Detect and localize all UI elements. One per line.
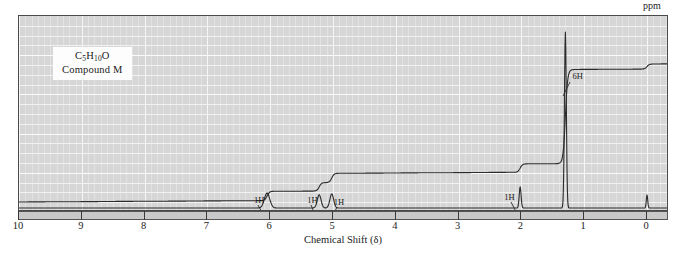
x-axis-tick-label-10: 10 xyxy=(3,220,33,231)
annotation-leader-line xyxy=(234,196,274,211)
x-axis-title: Chemical Shift (δ) xyxy=(0,234,686,245)
formula-o: O xyxy=(102,50,110,61)
x-axis-tick xyxy=(520,211,521,220)
x-axis-tick xyxy=(269,211,270,220)
x-axis-tick-label-9: 9 xyxy=(66,220,96,231)
x-axis-tick-label-1: 1 xyxy=(568,220,598,231)
annotation-leader-line xyxy=(484,193,524,211)
plot-area: C5H10O Compound M 1H1H1H1H6H xyxy=(18,15,668,211)
x-axis-tick xyxy=(81,211,82,220)
x-axis-tick xyxy=(144,211,145,220)
x-axis-tick-label-2: 2 xyxy=(505,220,535,231)
x-axis-tick xyxy=(458,211,459,220)
x-axis-tick xyxy=(206,211,207,220)
x-axis-tick-label-0: 0 xyxy=(631,220,661,231)
x-axis-tick-label-4: 4 xyxy=(380,220,410,231)
nmr-spectrum-figure: C5H10O Compound M 1H1H1H1H6H 10987654321… xyxy=(0,0,686,259)
annotation-leader-line xyxy=(314,198,354,211)
x-axis-unit-label: ppm xyxy=(643,0,661,11)
x-axis-tick xyxy=(395,211,396,220)
compound-name: Compound M xyxy=(62,64,123,76)
x-axis-tick-label-7: 7 xyxy=(191,220,221,231)
x-axis-tick-label-3: 3 xyxy=(443,220,473,231)
formula-h: H xyxy=(86,50,94,61)
x-axis-tick xyxy=(332,211,333,220)
x-axis-tick-label-6: 6 xyxy=(254,220,284,231)
x-axis-tick-label-5: 5 xyxy=(317,220,347,231)
x-axis-tick xyxy=(583,211,584,220)
formula-h-count: 10 xyxy=(94,54,102,63)
spectrum-trace xyxy=(19,16,668,211)
x-axis-ticks xyxy=(18,211,668,220)
molecular-formula: C5H10O xyxy=(62,50,123,64)
x-axis-tick-label-8: 8 xyxy=(129,220,159,231)
x-axis-tick xyxy=(646,211,647,220)
x-axis-tick xyxy=(18,211,19,220)
annotation-leader-line xyxy=(552,72,592,112)
compound-label-box: C5H10O Compound M xyxy=(53,47,132,80)
